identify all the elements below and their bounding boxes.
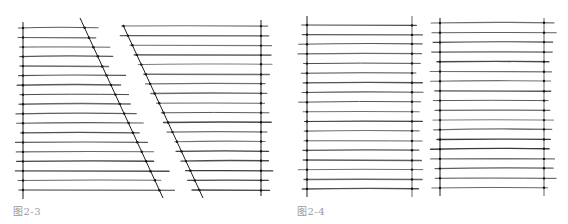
figure-caption-2-3: 图2-3 [13, 203, 41, 218]
sketch-row-line [299, 44, 422, 45]
sketch-row-line [146, 83, 266, 84]
sketch-row-line [433, 42, 553, 43]
sketch-row-line [431, 22, 554, 23]
sketch-row-line [435, 168, 553, 169]
sketch-row-line [302, 188, 418, 189]
sketch-row-line [431, 148, 549, 149]
sketch-row-line [17, 161, 154, 162]
sketch-row-line [304, 63, 421, 64]
sketch-row-line [434, 129, 552, 130]
sketch-row-line [432, 187, 548, 188]
sketch-row-line [164, 122, 272, 123]
sketch-row-line [431, 81, 551, 82]
sketch-row-line [138, 64, 272, 65]
sketch-row-line [18, 180, 161, 181]
figure-2-4-drawing [298, 16, 556, 197]
sketch-row-line [303, 150, 419, 151]
line-diagram-canvas [0, 0, 568, 224]
sketch-row-line [19, 104, 130, 105]
sketch-row-line [302, 92, 423, 93]
diagonal-guide-line [123, 25, 203, 198]
panel-2-2 [430, 18, 556, 196]
sketch-row-line [175, 141, 266, 142]
figure-2-3-drawing [15, 18, 272, 199]
sketch-row-line [303, 82, 422, 83]
sketch-row-line [19, 75, 126, 76]
sketch-row-line [304, 131, 419, 132]
figure-caption-2-4: 图2-4 [297, 203, 325, 218]
sketch-row-line [181, 160, 269, 161]
sketch-row-line [17, 85, 120, 86]
panel-2-1 [298, 16, 423, 197]
sketch-row-line [298, 53, 422, 54]
sketch-row-line [299, 101, 421, 102]
sketch-row-line [17, 123, 144, 124]
sketch-row-line [16, 113, 136, 114]
sketch-row-line [18, 27, 98, 28]
